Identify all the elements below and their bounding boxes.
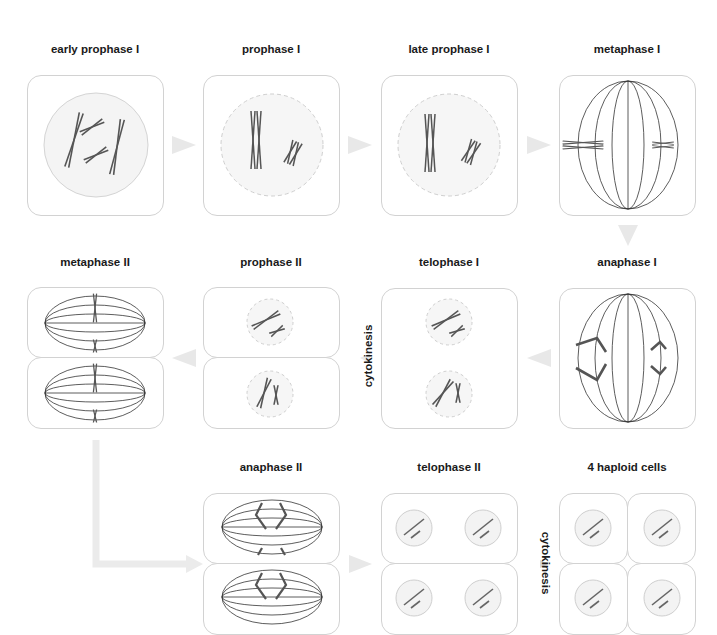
cytokinesis-label-2: cytokinesis (540, 523, 552, 603)
l-arrow-icon (96, 440, 188, 564)
arrow-right-icon (186, 555, 203, 573)
anaphase-2-top (222, 500, 322, 555)
arrow-left-icon (172, 349, 196, 367)
anaphase-2-bottom (222, 570, 322, 624)
chromosomes-anaphase-1 (576, 338, 666, 380)
arrow-right-icon (348, 136, 372, 154)
arrow-right-icon (349, 555, 372, 573)
arrow-right-icon (527, 136, 551, 154)
arrow-left-icon (527, 349, 551, 367)
chromosomes-metaphase-1 (563, 141, 674, 149)
cytokinesis-label-1: cytokinesis (362, 316, 374, 396)
arrow-down-icon (618, 225, 638, 246)
arrow-right-icon (172, 136, 196, 154)
